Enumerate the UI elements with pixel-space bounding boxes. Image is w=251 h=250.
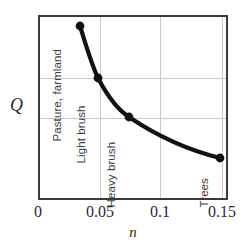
data-point-heavy-brush [125,113,134,122]
chart-figure: Q Pasture, farmland Light brush Heavy br… [0,0,251,250]
data-point-light-brush [94,74,103,83]
series-line-discharge [80,26,220,158]
x-tick-label-0.1: 0.1 [150,203,170,221]
data-point-trees [216,154,225,163]
x-axis-title: n [129,224,137,241]
x-tick-label-0: 0 [34,203,42,221]
data-curve-layer [40,17,226,198]
annotation-pasture-farmland: Pasture, farmland [52,49,64,141]
plot-area [38,15,228,200]
y-axis-title: Q [10,95,23,116]
x-tick-label-0.05: 0.05 [86,203,114,221]
annotation-light-brush: Light brush [76,106,88,164]
annotation-heavy-brush: Heavy brush [106,142,118,208]
data-point-pasture-farmland [76,22,85,31]
x-tick-label-0.15: 0.15 [208,203,236,221]
